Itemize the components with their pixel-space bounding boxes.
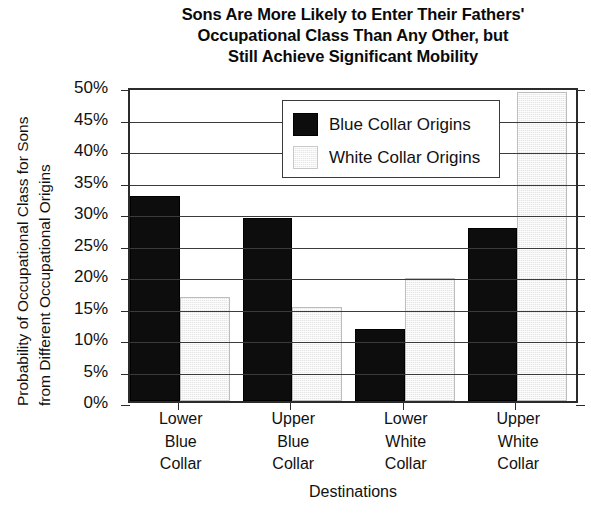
x-axis-category-line: Collar xyxy=(466,453,572,476)
x-axis-category-upper-blue-collar: UpperBlueCollar xyxy=(241,408,347,476)
y-axis-tick-label: 50% xyxy=(74,78,108,98)
legend-swatch-white-collar-icon xyxy=(293,146,318,169)
y-axis-tick-left xyxy=(121,122,130,123)
x-axis-category-line: Collar xyxy=(241,453,347,476)
y-axis-tick-left xyxy=(121,216,130,217)
y-axis-tick-left xyxy=(121,279,130,280)
y-axis-tick-label: 40% xyxy=(74,141,108,161)
y-axis-tick-labels: 50%45%40%35%30%25%20%15%10%5%0% xyxy=(0,88,122,403)
chart-title: Sons Are More Likely to Enter Their Fath… xyxy=(120,4,586,67)
x-axis-tick xyxy=(290,403,291,410)
legend-entry-blue-collar: Blue Collar Origins xyxy=(293,108,499,141)
x-axis-category-line: Upper xyxy=(241,408,347,431)
bar-lower-blue-collar-blue xyxy=(130,196,180,401)
x-axis-tick xyxy=(515,403,516,410)
chart-title-line-2: Occupational Class Than Any Other, but xyxy=(120,25,586,46)
y-axis-tick-label: 20% xyxy=(74,267,108,287)
bar-lower-white-collar-blue xyxy=(355,329,405,401)
y-axis-tick-right xyxy=(576,311,585,312)
y-axis-tick-left xyxy=(121,90,130,91)
x-axis-category-line: Blue xyxy=(241,431,347,454)
bar-upper-blue-collar-white xyxy=(292,307,342,402)
x-axis-tick xyxy=(403,403,404,410)
y-axis-tick-label: 35% xyxy=(74,173,108,193)
y-axis-tick-label: 10% xyxy=(74,330,108,350)
x-axis-category-labels: LowerBlueCollarUpperBlueCollarLowerWhite… xyxy=(128,408,578,480)
y-axis-tick-left xyxy=(121,248,130,249)
x-axis-category-lower-white-collar: LowerWhiteCollar xyxy=(353,408,459,476)
x-axis-tick xyxy=(178,403,179,410)
y-axis-tick-right xyxy=(576,90,585,91)
y-axis-tick-left xyxy=(121,311,130,312)
y-axis-tick-right xyxy=(576,342,585,343)
y-axis-tick-left xyxy=(121,342,130,343)
y-axis-tick-label: 45% xyxy=(74,110,108,130)
x-axis-category-line: Lower xyxy=(353,408,459,431)
y-axis-tick-right xyxy=(576,279,585,280)
y-axis-tick-left xyxy=(121,185,130,186)
y-axis-tick-right xyxy=(576,185,585,186)
x-axis-category-line: Lower xyxy=(128,408,234,431)
bar-lower-white-collar-white xyxy=(405,278,455,401)
x-axis-category-line: White xyxy=(353,431,459,454)
legend-swatch-blue-collar-icon xyxy=(293,113,318,136)
y-axis-tick-right xyxy=(576,122,585,123)
gridline xyxy=(130,248,576,249)
y-axis-tick-label: 5% xyxy=(83,362,108,382)
gridline xyxy=(130,279,576,280)
y-axis-tick-left xyxy=(121,405,130,406)
legend: Blue Collar Origins White Collar Origins xyxy=(282,100,500,178)
x-axis-category-line: Collar xyxy=(128,453,234,476)
y-axis-tick-right xyxy=(576,374,585,375)
y-axis-tick-label: 0% xyxy=(83,393,108,413)
gridline xyxy=(130,342,576,343)
y-axis-tick-left xyxy=(121,153,130,154)
x-axis-category-line: White xyxy=(466,431,572,454)
y-axis-tick-right xyxy=(576,405,585,406)
gridline xyxy=(130,185,576,186)
legend-label-blue-collar: Blue Collar Origins xyxy=(329,115,471,135)
y-axis-tick-right xyxy=(576,153,585,154)
x-axis-category-lower-blue-collar: LowerBlueCollar xyxy=(128,408,234,476)
x-axis-title: Destinations xyxy=(128,483,578,501)
bar-upper-white-collar-blue xyxy=(468,228,518,401)
gridline xyxy=(130,311,576,312)
y-axis-tick-right xyxy=(576,216,585,217)
x-axis-category-upper-white-collar: UpperWhiteCollar xyxy=(466,408,572,476)
legend-label-white-collar: White Collar Origins xyxy=(329,148,480,168)
y-axis-tick-label: 15% xyxy=(74,299,108,319)
x-axis-category-line: Upper xyxy=(466,408,572,431)
x-axis-category-line: Collar xyxy=(353,453,459,476)
y-axis-tick-label: 30% xyxy=(74,204,108,224)
y-axis-tick-right xyxy=(576,248,585,249)
bar-chart: Sons Are More Likely to Enter Their Fath… xyxy=(0,0,591,516)
legend-entry-white-collar: White Collar Origins xyxy=(293,141,499,174)
gridline xyxy=(130,216,576,217)
x-axis-category-line: Blue xyxy=(128,431,234,454)
gridline xyxy=(130,374,576,375)
chart-title-line-3: Still Achieve Significant Mobility xyxy=(120,46,586,67)
y-axis-tick-left xyxy=(121,374,130,375)
bar-lower-blue-collar-white xyxy=(180,297,230,401)
chart-title-line-1: Sons Are More Likely to Enter Their Fath… xyxy=(120,4,586,25)
y-axis-tick-label: 25% xyxy=(74,236,108,256)
